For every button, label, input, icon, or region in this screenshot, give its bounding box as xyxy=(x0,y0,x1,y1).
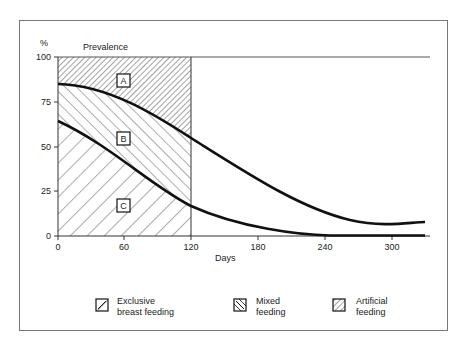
svg-text:breast feeding: breast feeding xyxy=(117,307,174,317)
svg-text:0: 0 xyxy=(46,231,51,241)
svg-text:C: C xyxy=(120,201,127,211)
svg-text:Artificial: Artificial xyxy=(356,296,388,306)
svg-text:240: 240 xyxy=(317,242,332,252)
region-marker-c: C xyxy=(117,199,130,212)
svg-text:180: 180 xyxy=(250,242,265,252)
legend-swatch-exclusive xyxy=(96,299,108,311)
y-ticks xyxy=(54,57,58,236)
legend-text: Exclusive breast feeding Mixed feeding A… xyxy=(117,296,388,317)
region-marker-b: B xyxy=(117,132,130,145)
chart-plot: % Prevalence Days 100 75 50 25 0 0 60 12… xyxy=(0,0,466,348)
svg-text:B: B xyxy=(120,134,126,144)
svg-text:50: 50 xyxy=(41,142,51,152)
svg-text:100: 100 xyxy=(36,52,51,62)
y-unit-label: % xyxy=(40,38,48,48)
y-tick-labels: 100 75 50 25 0 xyxy=(36,52,51,241)
svg-text:0: 0 xyxy=(55,242,60,252)
svg-text:25: 25 xyxy=(41,186,51,196)
chart-title: Prevalence xyxy=(83,42,128,52)
x-axis-label: Days xyxy=(215,253,236,263)
svg-text:60: 60 xyxy=(119,242,129,252)
svg-text:120: 120 xyxy=(183,242,198,252)
legend-swatch-mixed xyxy=(234,299,246,311)
x-tick-labels: 0 60 120 180 240 300 xyxy=(55,242,399,252)
svg-text:Mixed: Mixed xyxy=(256,296,280,306)
svg-text:75: 75 xyxy=(41,97,51,107)
svg-text:A: A xyxy=(120,76,126,86)
svg-text:feeding: feeding xyxy=(256,307,286,317)
svg-text:300: 300 xyxy=(384,242,399,252)
svg-text:Exclusive: Exclusive xyxy=(117,296,155,306)
legend-swatch-artificial xyxy=(333,299,345,311)
svg-text:feeding: feeding xyxy=(356,307,386,317)
region-marker-a: A xyxy=(117,74,130,87)
